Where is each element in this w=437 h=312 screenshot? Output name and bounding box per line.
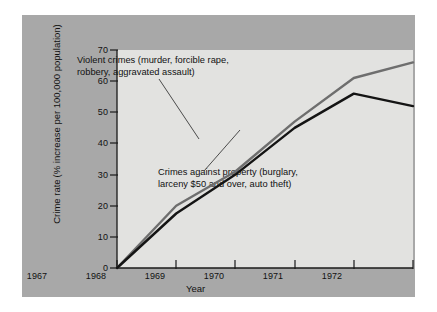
figure-panel: 70 60 50 40 30 20 10 0 Crime rate (% inc… — [22, 15, 415, 297]
series-line-property-crimes — [117, 94, 413, 268]
series-line-violent-crimes — [117, 62, 413, 268]
chart-svg — [22, 15, 415, 297]
chart-figure: 70 60 50 40 30 20 10 0 Crime rate (% inc… — [0, 0, 437, 312]
property-crimes-leader-line — [204, 130, 240, 171]
violent-crimes-leader-line — [159, 79, 199, 139]
